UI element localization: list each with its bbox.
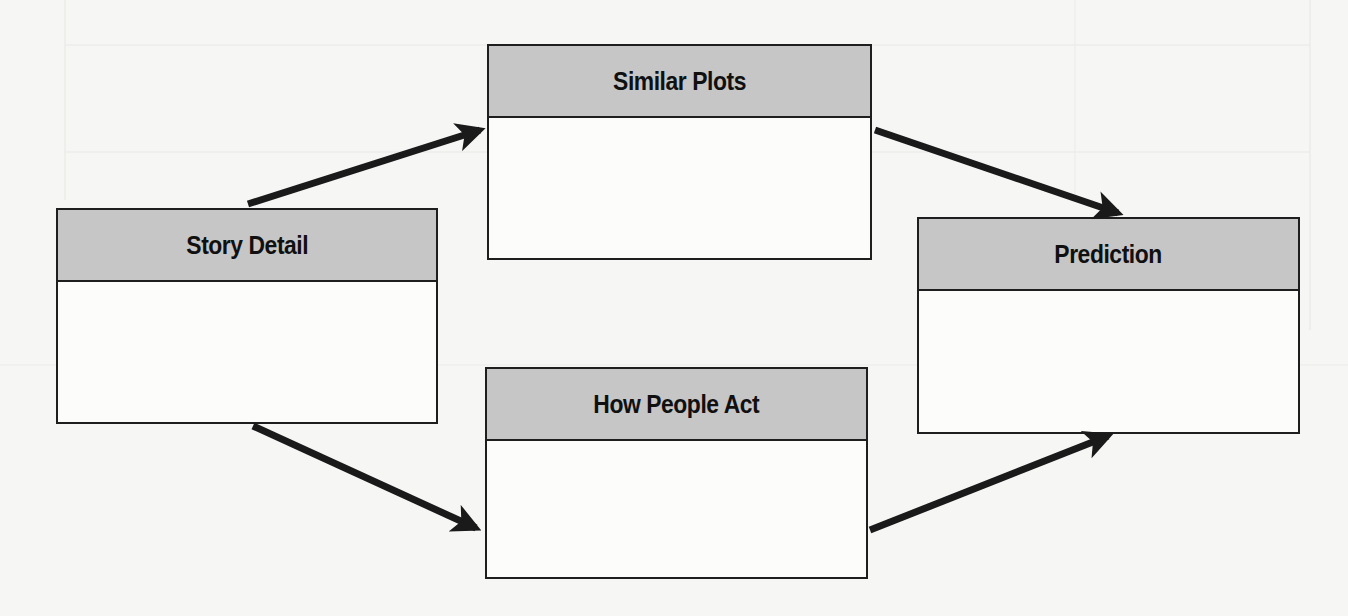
node-title: How People Act [594, 389, 760, 420]
node-story-detail: Story Detail [56, 208, 438, 424]
node-header: Similar Plots [489, 46, 870, 118]
arrow-story-detail-to-similar-plots [248, 130, 480, 204]
node-header: Story Detail [58, 210, 436, 282]
node-header: How People Act [487, 369, 866, 441]
arrow-how-people-act-to-prediction [870, 436, 1108, 530]
node-how-people-act: How People Act [485, 367, 868, 579]
node-title: Prediction [1055, 239, 1162, 270]
node-title: Story Detail [186, 230, 308, 261]
node-header: Prediction [919, 219, 1298, 291]
arrow-story-detail-to-how-people-act [253, 426, 476, 528]
node-similar-plots: Similar Plots [487, 44, 872, 260]
node-prediction: Prediction [917, 217, 1300, 434]
arrow-similar-plots-to-prediction [875, 130, 1118, 213]
node-title: Similar Plots [613, 66, 746, 97]
